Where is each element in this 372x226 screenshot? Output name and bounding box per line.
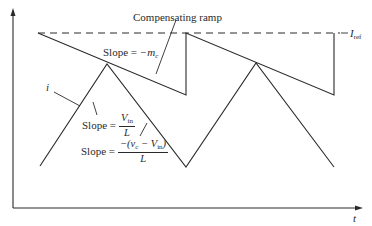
compensating-ramp <box>38 33 334 95</box>
time-axis-symbol: t <box>353 212 356 224</box>
falling-slope-numerator: −(vc − Vin) <box>118 139 168 153</box>
falling-slope-label: Slope = −(vc − Vin) L <box>81 139 168 165</box>
compensating-ramp-leader <box>156 20 176 74</box>
y-axis-arrow-icon <box>11 8 16 16</box>
falling-slope-prefix: Slope = <box>81 146 115 157</box>
ramp-slope-value: −m <box>140 46 155 58</box>
rising-slope-numerator: Vin <box>119 113 135 127</box>
x-axis-arrow-icon <box>355 206 363 211</box>
rising-slope-denominator: L <box>124 127 130 139</box>
diagram-canvas <box>0 0 372 226</box>
ramp-slope-prefix: Slope = <box>103 46 140 58</box>
slope-down-leader <box>140 123 147 136</box>
current-mode-control-diagram: Compensating ramp Iref Slope = −mc i Slo… <box>0 0 372 226</box>
current-symbol: i <box>46 81 49 93</box>
rising-slope-prefix: Slope = <box>82 120 116 131</box>
x-axis-label: t <box>353 213 356 224</box>
rising-slope-fraction: Vin L <box>119 113 135 139</box>
ramp-slope-label: Slope = −mc <box>103 47 158 60</box>
iref-subscript: ref <box>354 33 362 41</box>
current-label-leader <box>54 92 80 106</box>
compensating-ramp-text: Compensating ramp <box>133 11 222 23</box>
rising-slope-label: Slope = Vin L <box>82 113 135 139</box>
current-label: i <box>46 82 49 93</box>
falling-slope-fraction: −(vc − Vin) L <box>118 139 168 165</box>
ramp-slope-subscript: c <box>155 52 158 60</box>
compensating-ramp-label: Compensating ramp <box>133 12 222 23</box>
falling-slope-denominator: L <box>140 153 146 165</box>
axes <box>11 8 364 211</box>
iref-label: Iref <box>350 28 361 41</box>
